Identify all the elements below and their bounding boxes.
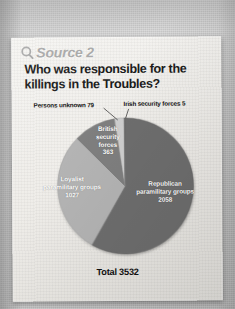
label-irish-security-forces: Irish security forces 5 [124, 101, 186, 108]
screenshot-root: Source 2 Who was responsible for the kil… [0, 0, 235, 309]
label-persons-unknown: Persons unknown 79 [34, 102, 94, 109]
leader-line-irish-security-forces [126, 109, 129, 118]
leader-line-persons-unknown [104, 108, 118, 120]
source-card: Source 2 Who was responsible for the kil… [11, 36, 223, 301]
label-loyalist-paramilitary-groups: Loyalistparamilitary groups1027 [34, 175, 110, 199]
label-republican-paramilitary-groups: Republicanparamilitary groups2058 [122, 179, 208, 203]
pie-chart-svg [11, 36, 223, 301]
pie-chart: Persons unknown 79 Irish security forces… [11, 36, 223, 301]
label-british-security-forces: Britishsecurityforces363 [84, 125, 132, 157]
total-label: Total 3532 [13, 266, 223, 277]
